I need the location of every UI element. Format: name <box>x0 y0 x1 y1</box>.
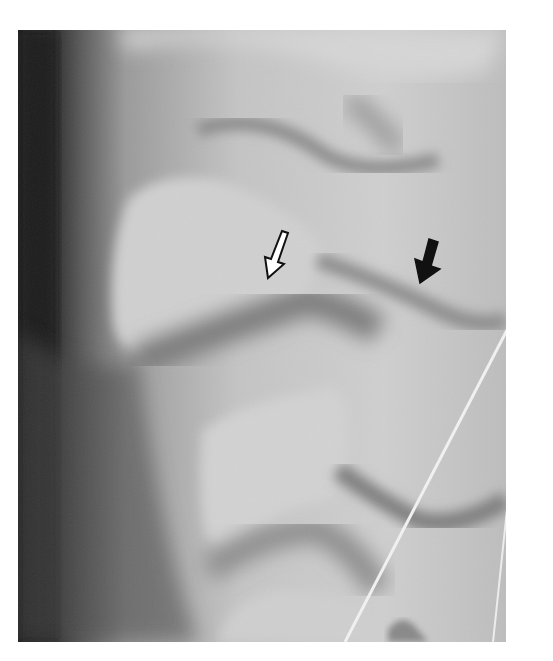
xray-graphic <box>18 30 506 642</box>
xray-image <box>18 30 506 642</box>
